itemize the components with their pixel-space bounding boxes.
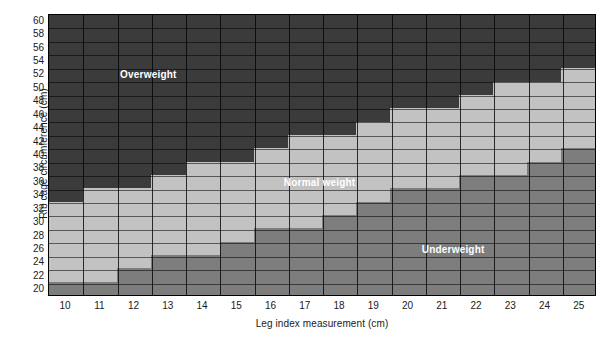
heatmap-cell	[493, 228, 527, 241]
heatmap-cell	[117, 148, 151, 161]
heatmap-cell	[390, 268, 424, 281]
heatmap-cell	[151, 148, 185, 161]
heatmap-cell	[322, 135, 356, 148]
heatmap-cell	[493, 242, 527, 255]
heatmap-cell	[390, 228, 424, 241]
heatmap-cell	[254, 188, 288, 201]
y-axis-tick: 28	[22, 231, 44, 241]
y-axis-tick-labels: 6058565452504846444240383634323028262422…	[18, 14, 44, 296]
heatmap-cell	[254, 82, 288, 95]
heatmap-cell	[459, 202, 493, 215]
heatmap-cell	[493, 28, 527, 41]
heatmap-cell	[288, 148, 322, 161]
heatmap-cell	[117, 28, 151, 41]
heatmap-cell	[322, 188, 356, 201]
heatmap-cell	[186, 215, 220, 228]
heatmap-cell	[288, 188, 322, 201]
heatmap-cell	[186, 135, 220, 148]
heatmap-cell	[254, 282, 288, 295]
y-axis-tick: 36	[22, 177, 44, 187]
heatmap-cell	[186, 162, 220, 175]
y-axis-tick: 34	[22, 190, 44, 200]
heatmap-cell	[117, 95, 151, 108]
heatmap-cell	[356, 28, 390, 41]
heatmap-cell	[254, 122, 288, 135]
heatmap-cell	[527, 122, 561, 135]
heatmap-cell	[390, 242, 424, 255]
y-axis-tick: 22	[22, 271, 44, 281]
heatmap-cell	[322, 55, 356, 68]
zone-label-overweight: Overweight	[120, 69, 176, 80]
heatmap-cell	[220, 55, 254, 68]
heatmap-cell	[424, 122, 458, 135]
heatmap-cell	[117, 42, 151, 55]
heatmap-cell	[527, 255, 561, 268]
heatmap-cell	[117, 202, 151, 215]
y-axis-tick: 48	[22, 96, 44, 106]
heatmap-cell	[186, 268, 220, 281]
heatmap-cell	[390, 68, 424, 81]
heatmap-cell	[493, 162, 527, 175]
body-condition-chart: Rib cage circumference (cm) 605856545250…	[0, 0, 613, 337]
heatmap-cell	[186, 28, 220, 41]
heatmap-cell	[424, 95, 458, 108]
heatmap-cell	[322, 202, 356, 215]
heatmap-cell	[322, 148, 356, 161]
heatmap-cell	[561, 282, 595, 295]
heatmap-cell	[254, 268, 288, 281]
heatmap-cell	[288, 242, 322, 255]
heatmap-cell	[151, 82, 185, 95]
heatmap-cell	[83, 42, 117, 55]
heatmap-cell	[424, 228, 458, 241]
x-axis-tick: 22	[459, 300, 493, 311]
heatmap-cell	[49, 175, 83, 188]
heatmap-cell	[527, 228, 561, 241]
heatmap-cell	[220, 282, 254, 295]
y-axis-tick: 30	[22, 217, 44, 227]
heatmap-cell	[288, 15, 322, 28]
heatmap-cell	[561, 68, 595, 81]
x-axis-title: Leg index measurement (cm)	[48, 318, 596, 329]
heatmap-cell	[424, 15, 458, 28]
heatmap-cell	[83, 162, 117, 175]
heatmap-cell	[186, 82, 220, 95]
x-axis-tick: 24	[528, 300, 562, 311]
heatmap-cell	[493, 82, 527, 95]
heatmap-cell	[459, 68, 493, 81]
heatmap-cell	[83, 55, 117, 68]
heatmap-cell	[254, 228, 288, 241]
heatmap-cell	[527, 282, 561, 295]
heatmap-cell	[527, 175, 561, 188]
x-axis-tick: 15	[219, 300, 253, 311]
heatmap-cell	[288, 215, 322, 228]
heatmap-cell	[117, 215, 151, 228]
y-axis-tick: 52	[22, 69, 44, 79]
heatmap-cell	[424, 135, 458, 148]
heatmap-cell	[390, 95, 424, 108]
heatmap-cell	[49, 255, 83, 268]
heatmap-cell	[390, 188, 424, 201]
heatmap-cell	[151, 282, 185, 295]
heatmap-cell	[356, 55, 390, 68]
heatmap-cell	[493, 215, 527, 228]
heatmap-cell	[220, 135, 254, 148]
heatmap-cell	[117, 188, 151, 201]
heatmap-cell	[186, 228, 220, 241]
heatmap-cell	[424, 202, 458, 215]
heatmap-cell	[356, 135, 390, 148]
heatmap-cell	[459, 175, 493, 188]
x-axis-tick: 23	[493, 300, 527, 311]
heatmap-cell	[390, 202, 424, 215]
heatmap-cell	[424, 188, 458, 201]
heatmap-cell	[356, 42, 390, 55]
heatmap-cell	[254, 215, 288, 228]
heatmap-cell	[493, 268, 527, 281]
heatmap-cell	[493, 42, 527, 55]
heatmap-cell	[186, 202, 220, 215]
heatmap-cell	[83, 68, 117, 81]
x-axis-tick: 21	[425, 300, 459, 311]
heatmap-cell	[527, 28, 561, 41]
heatmap-cell	[527, 188, 561, 201]
heatmap-cell	[390, 55, 424, 68]
heatmap-cell	[186, 255, 220, 268]
